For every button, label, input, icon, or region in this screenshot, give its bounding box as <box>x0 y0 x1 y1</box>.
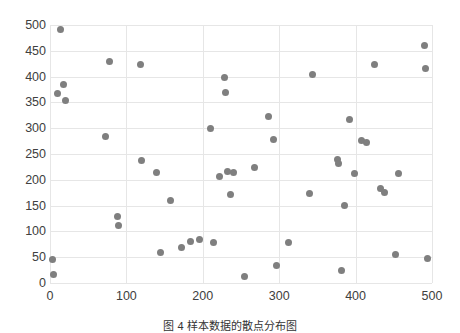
gridline-vertical <box>50 25 51 283</box>
y-axis-tick-label: 500 <box>4 19 46 32</box>
y-axis-tick-label: 250 <box>4 148 46 161</box>
y-axis-tick-label: 450 <box>4 45 46 58</box>
data-point <box>421 42 428 49</box>
gridline-horizontal <box>50 206 432 207</box>
data-point <box>196 236 203 243</box>
gridline-horizontal <box>50 128 432 129</box>
gridline-horizontal <box>50 51 432 52</box>
x-axis-tick-label: 200 <box>173 290 233 303</box>
y-axis-tick-label: 300 <box>4 122 46 135</box>
data-point <box>60 81 67 88</box>
data-point <box>106 58 113 65</box>
gridline-horizontal <box>50 25 432 26</box>
data-point <box>381 189 388 196</box>
gridline-horizontal <box>50 180 432 181</box>
data-point <box>167 197 174 204</box>
gridline-vertical <box>203 25 204 283</box>
data-point <box>50 271 57 278</box>
data-point <box>392 251 399 258</box>
x-axis-tick-label: 500 <box>402 290 460 303</box>
data-point <box>270 136 277 143</box>
data-point <box>335 160 342 167</box>
y-axis-tick-label: 0 <box>4 277 46 290</box>
data-point <box>115 222 122 229</box>
x-axis-tick-label: 300 <box>249 290 309 303</box>
gridline-horizontal <box>50 77 432 78</box>
data-point <box>273 262 280 269</box>
data-point <box>153 169 160 176</box>
data-point <box>306 190 313 197</box>
gridline-vertical <box>356 25 357 283</box>
data-point <box>251 164 258 171</box>
data-point <box>221 74 228 81</box>
data-point <box>351 170 358 177</box>
data-point <box>187 238 194 245</box>
gridline-vertical <box>432 25 433 283</box>
data-point <box>178 244 185 251</box>
data-point <box>346 116 353 123</box>
gridline-horizontal <box>50 102 432 103</box>
data-point <box>102 133 109 140</box>
data-point <box>114 213 121 220</box>
data-point <box>210 239 217 246</box>
gridline-vertical <box>126 25 127 283</box>
gridline-horizontal <box>50 283 432 284</box>
data-point <box>241 273 248 280</box>
data-point <box>138 157 145 164</box>
data-point <box>265 113 272 120</box>
data-point <box>422 65 429 72</box>
data-point <box>222 89 229 96</box>
data-point <box>54 90 61 97</box>
data-point <box>309 71 316 78</box>
figure-caption: 图 4 样本数据的散点分布图 <box>0 320 460 333</box>
data-point <box>207 125 214 132</box>
data-point <box>285 239 292 246</box>
gridline-horizontal <box>50 154 432 155</box>
y-axis-tick-label: 350 <box>4 96 46 109</box>
y-axis-tick-label: 100 <box>4 225 46 238</box>
y-axis-tick-label: 50 <box>4 251 46 264</box>
gridline-horizontal <box>50 257 432 258</box>
x-axis-tick-label: 0 <box>20 290 80 303</box>
x-axis-tick-label: 100 <box>96 290 156 303</box>
data-point <box>395 170 402 177</box>
data-point <box>137 61 144 68</box>
data-point <box>341 202 348 209</box>
gridline-vertical <box>279 25 280 283</box>
y-axis-tick-label: 400 <box>4 70 46 83</box>
y-axis-tick-label: 200 <box>4 174 46 187</box>
data-point <box>227 191 234 198</box>
x-axis-tick-label: 400 <box>326 290 386 303</box>
y-axis-tick-labels: 050100150200250300350400450500 <box>0 0 46 333</box>
data-point <box>363 139 370 146</box>
plot-area <box>50 25 432 283</box>
data-point <box>338 267 345 274</box>
scatter-plot-figure: 050100150200250300350400450500 图 4 样本数据的… <box>0 0 460 333</box>
data-point <box>57 26 64 33</box>
data-point <box>371 61 378 68</box>
y-axis-tick-label: 150 <box>4 199 46 212</box>
data-point <box>230 169 237 176</box>
gridline-horizontal <box>50 231 432 232</box>
data-point <box>424 255 431 262</box>
data-point <box>49 256 56 263</box>
data-point <box>157 249 164 256</box>
